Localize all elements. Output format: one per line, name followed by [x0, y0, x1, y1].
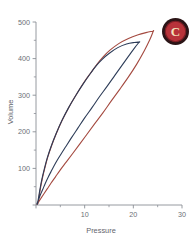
x-tick-label: 30: [178, 210, 186, 219]
y-tick-label: 500: [18, 18, 30, 27]
badge-letter: C: [171, 24, 180, 39]
y-tick-label: 100: [18, 164, 30, 173]
pv-loop-chart: 102030100200300400500 Pressure Volume C: [0, 0, 196, 241]
y-tick-label: 200: [18, 127, 30, 136]
pressure-volume-figure: 102030100200300400500 Pressure Volume C: [0, 0, 196, 241]
y-tick-label: 400: [18, 54, 30, 63]
y-tick-label: 300: [18, 91, 30, 100]
x-tick-label: 10: [81, 210, 89, 219]
x-tick-label: 20: [129, 210, 137, 219]
y-axis-title: Volume: [6, 100, 15, 125]
x-axis-title: Pressure: [86, 226, 116, 235]
panel-label-badge: C: [162, 18, 189, 45]
